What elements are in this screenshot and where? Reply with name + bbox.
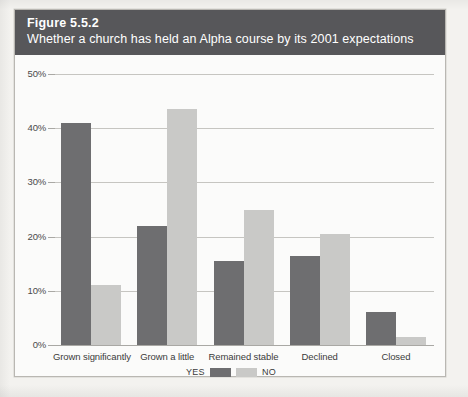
figure-number: Figure 5.5.2 [27,15,445,31]
bar-yes-grown-a-little [137,226,167,345]
x-axis-label-remained-stable: Remained stable [205,351,281,362]
bar-yes-grown-significantly [61,123,91,345]
scanned-page: Figure 5.5.2 Whether a church has held a… [0,0,468,397]
x-axis-label-closed: Closed [358,351,434,362]
chart-plot-area: 0%10%20%30%40%50% Grown significantlyGro… [15,55,447,377]
x-axis-label-declined: Declined [282,351,358,362]
bar-yes-remained-stable [214,261,244,345]
chart-legend: YES NO [15,367,447,377]
legend-label-yes: YES [186,367,205,377]
bar-no-closed [396,337,426,345]
bars-group [15,55,447,377]
figure-header-band: Figure 5.5.2 Whether a church has held a… [15,10,445,55]
figure-caption: Whether a church has held an Alpha cours… [27,31,445,48]
x-axis-label-grown-significantly: Grown significantly [53,351,129,362]
figure-container: Figure 5.5.2 Whether a church has held a… [14,9,446,377]
x-axis-label-grown-a-little: Grown a little [129,351,205,362]
bar-yes-declined [290,256,320,345]
bar-no-grown-significantly [91,285,121,345]
bar-yes-closed [366,312,396,345]
legend-label-no: NO [262,367,276,377]
bar-no-remained-stable [244,210,274,346]
bar-no-declined [320,234,350,345]
legend-swatch-no [236,368,257,377]
legend-swatch-yes [210,368,231,377]
bar-no-grown-a-little [167,109,197,345]
